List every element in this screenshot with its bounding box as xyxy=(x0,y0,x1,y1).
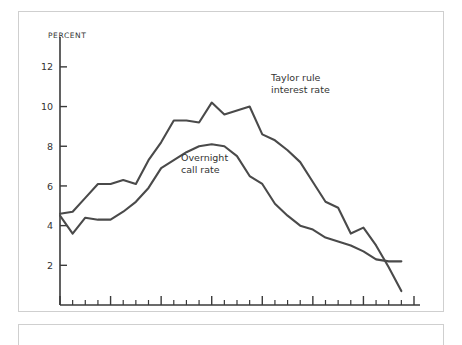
line-chart: 24681012 1988198919901991199219931994199… xyxy=(18,11,442,310)
lower-panel-border xyxy=(18,324,444,345)
y-tick-label: 10 xyxy=(41,101,53,112)
annotation-overnight-call-rate: Overnightcall rate xyxy=(181,152,228,175)
y-tick-label: 2 xyxy=(47,260,53,271)
annotation-line: Taylor rule xyxy=(270,72,321,83)
y-tick-label: 6 xyxy=(47,181,53,192)
annotation-line: call rate xyxy=(181,164,220,175)
y-tick-label: 4 xyxy=(47,220,53,231)
y-axis: 24681012 xyxy=(41,37,67,305)
y-tick-label: 12 xyxy=(41,61,53,72)
annotation-taylor-rule: Taylor ruleinterest rate xyxy=(270,72,330,95)
annotation-line: interest rate xyxy=(271,84,330,95)
series-annotation-group: Taylor ruleinterest rateOvernightcall ra… xyxy=(181,72,330,175)
x-axis: 19881989199019911992199319941995 xyxy=(48,296,426,310)
y-axis-unit-label: PERCENT xyxy=(48,31,86,40)
series-line-taylor-rule xyxy=(60,103,401,292)
y-tick-group xyxy=(60,67,67,265)
y-tick-label-group: 24681012 xyxy=(41,61,53,270)
y-tick-label: 8 xyxy=(47,141,53,152)
annotation-line: Overnight xyxy=(181,152,228,163)
series-line-overnight-call-rate xyxy=(60,144,401,261)
series-path-group xyxy=(60,103,401,292)
